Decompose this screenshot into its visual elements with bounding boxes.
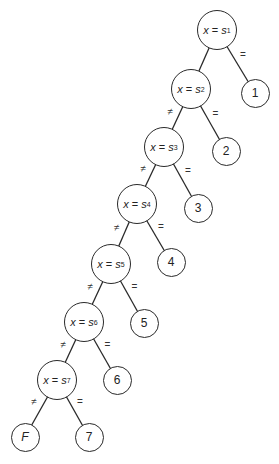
subscript-label: 6 [94,319,98,326]
operator-label: = [79,316,85,328]
subscript-label: 1 [227,27,231,34]
operator-label: = [212,24,218,36]
subscript-label: 2 [201,86,205,93]
equal-label: = [185,166,191,176]
operator-label: = [106,258,112,270]
test-node-s7: x=s7 [37,360,77,400]
not-equal-label: ≠ [141,164,147,174]
equal-label: = [213,109,219,119]
leaf-node-5: 5 [130,309,159,338]
equal-label: = [240,50,246,60]
operator-label: = [52,374,58,386]
not-equal-label: ≠ [87,282,93,292]
test-node-s2: x=s2 [171,69,211,109]
test-node-s3: x=s3 [144,127,184,167]
tree-edges [0,0,279,464]
variable-label: x [203,24,209,36]
leaf-node-4: 4 [157,248,186,277]
variable-label: x [97,258,103,270]
equal-label: = [77,397,83,407]
variable-label: x [70,316,76,328]
test-node-s6: x=s6 [64,302,104,342]
not-equal-label: ≠ [114,223,120,233]
leaf-node-3: 3 [184,194,213,223]
not-equal-label: ≠ [167,107,173,117]
leaf-node-7: 7 [75,423,104,452]
equal-label: = [132,282,138,292]
leaf-node-2: 2 [212,137,241,166]
not-equal-label: ≠ [60,340,66,350]
variable-label: x [123,198,129,210]
operator-label: = [159,141,165,153]
leaf-node-6: 6 [103,366,132,395]
subscript-label: 7 [67,377,71,384]
leaf-node-1: 1 [241,79,270,108]
subscript-label: 5 [121,261,125,268]
equal-label: = [158,222,164,232]
decision-tree-diagram: =≠=≠=≠=≠=≠=≠= x=s1x=s2x=s3x=s4x=s5x=s6x=… [0,0,279,464]
variable-label: x [177,83,183,95]
leaf-node-F: F [11,423,40,452]
subscript-label: 4 [147,201,151,208]
subscript-label: 3 [174,144,178,151]
variable-label: x [43,374,49,386]
not-equal-label: ≠ [31,397,37,407]
test-node-s5: x=s5 [91,244,131,284]
test-node-s4: x=s4 [117,184,157,224]
equal-label: = [105,340,111,350]
operator-label: = [132,198,138,210]
test-node-s1: x=s1 [197,10,237,50]
variable-label: x [150,141,156,153]
operator-label: = [186,83,192,95]
